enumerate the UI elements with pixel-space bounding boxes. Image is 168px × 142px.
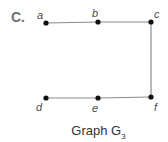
edge-a-b — [46, 22, 98, 23]
vertex-c — [148, 19, 153, 24]
vertex-label-f: f — [154, 101, 158, 113]
edge-f-e — [98, 97, 151, 98]
graph-caption: Graph G3 — [0, 123, 168, 141]
vertex-b — [95, 19, 100, 24]
vertex-label-a: a — [37, 9, 43, 21]
caption-prefix: Graph — [71, 123, 111, 138]
vertex-label-c: c — [154, 8, 160, 20]
vertex-label-b: b — [92, 7, 98, 19]
vertex-a — [43, 20, 48, 25]
vertex-label-e: e — [92, 102, 98, 114]
edges — [46, 22, 151, 98]
vertices — [43, 19, 153, 100]
vertex-f — [148, 94, 153, 99]
vertex-label-d: d — [36, 101, 43, 113]
vertex-d — [43, 95, 48, 100]
caption-main: G — [111, 123, 121, 138]
graph-g3: abcdef — [0, 0, 168, 142]
caption-subscript: 3 — [121, 132, 125, 141]
vertex-e — [95, 95, 100, 100]
